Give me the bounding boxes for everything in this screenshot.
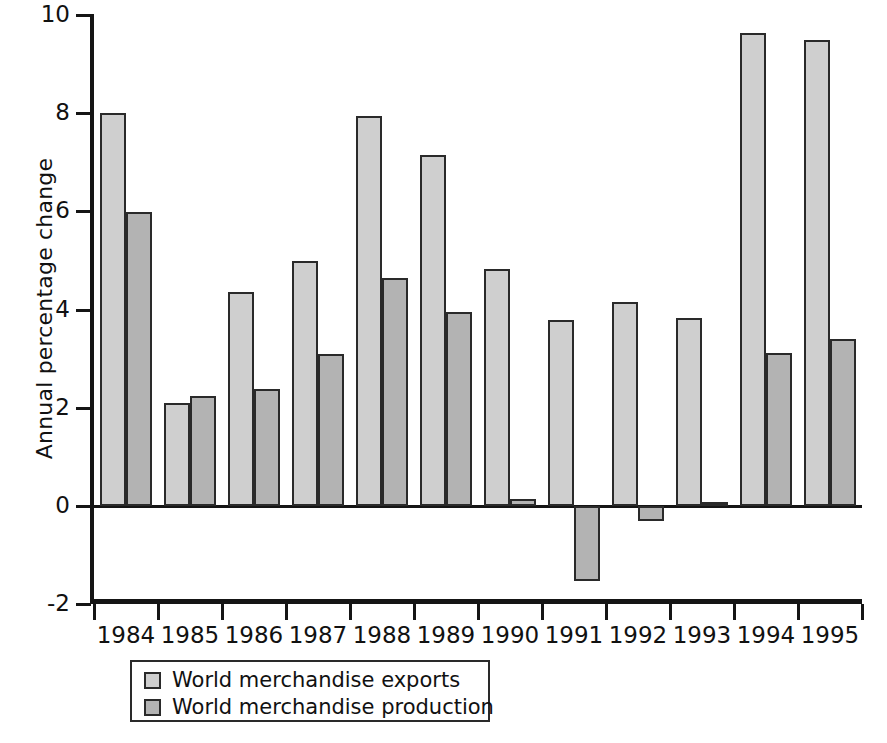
bar-production-1987 [318, 354, 344, 506]
y-tick [76, 505, 91, 508]
bar-production-1989 [446, 312, 472, 506]
legend-label-production: World merchandise production [172, 696, 494, 718]
legend-swatch-production-icon [144, 699, 161, 716]
x-tick-label-1989: 1989 [411, 622, 481, 648]
bar-production-1984 [126, 212, 152, 506]
legend-swatch-exports-icon [144, 672, 161, 689]
x-tick [605, 604, 608, 620]
bar-production-1995 [830, 339, 856, 506]
x-tick-label-1993: 1993 [667, 622, 737, 648]
x-tick [157, 604, 160, 620]
x-axis-line [90, 599, 862, 604]
bar-exports-1995 [804, 40, 830, 506]
x-tick [733, 604, 736, 620]
y-tick-label: 0 [8, 494, 70, 517]
bar-production-1985 [190, 396, 216, 506]
x-tick-label-1984: 1984 [91, 622, 161, 648]
bar-exports-1990 [484, 269, 510, 506]
y-tick [76, 14, 91, 17]
x-tick-label-1995: 1995 [795, 622, 865, 648]
bar-exports-1986 [228, 292, 254, 506]
y-tick-label: 2 [8, 396, 70, 419]
bar-production-1993 [702, 502, 728, 506]
legend-label-exports: World merchandise exports [172, 669, 460, 691]
bar-exports-1991 [548, 320, 574, 506]
x-tick-label-1991: 1991 [539, 622, 609, 648]
x-tick [541, 604, 544, 620]
bar-exports-1992 [612, 302, 638, 506]
legend-item-production: World merchandise production [144, 694, 478, 720]
x-tick-label-1994: 1994 [731, 622, 801, 648]
x-tick [797, 604, 800, 620]
x-tick-label-1986: 1986 [219, 622, 289, 648]
y-tick [76, 210, 91, 213]
y-tick-label: 4 [8, 298, 70, 321]
bar-exports-1984 [100, 113, 126, 506]
y-tick [76, 309, 91, 312]
y-tick [76, 603, 91, 606]
bar-production-1986 [254, 389, 280, 506]
legend: World merchandise exports World merchand… [130, 660, 490, 722]
bar-exports-1987 [292, 261, 318, 507]
bar-exports-1993 [676, 318, 702, 506]
x-tick [349, 604, 352, 620]
bar-production-1988 [382, 278, 408, 506]
x-tick-label-1987: 1987 [283, 622, 353, 648]
bar-production-1990 [510, 499, 536, 506]
y-tick [76, 112, 91, 115]
y-tick-label: 6 [8, 199, 70, 222]
x-tick [669, 604, 672, 620]
bar-production-1994 [766, 353, 792, 506]
bar-exports-1985 [164, 403, 190, 506]
bar-production-1992 [638, 506, 664, 521]
bar-chart: Annual percentage change 1086420-2 19841… [0, 0, 887, 743]
x-tick [861, 604, 864, 620]
x-tick-label-1985: 1985 [155, 622, 225, 648]
bar-production-1991 [574, 506, 600, 581]
x-tick [285, 604, 288, 620]
y-tick-label: 8 [8, 101, 70, 124]
y-tick-label: 10 [8, 3, 70, 26]
x-tick [413, 604, 416, 620]
x-tick [93, 604, 96, 620]
y-tick-label: -2 [8, 592, 70, 615]
bar-exports-1988 [356, 116, 382, 506]
x-tick-label-1990: 1990 [475, 622, 545, 648]
x-tick [221, 604, 224, 620]
bar-exports-1989 [420, 155, 446, 506]
bar-exports-1994 [740, 33, 766, 506]
x-tick-label-1988: 1988 [347, 622, 417, 648]
x-tick-label-1992: 1992 [603, 622, 673, 648]
y-tick [76, 407, 91, 410]
x-tick [477, 604, 480, 620]
legend-item-exports: World merchandise exports [144, 667, 478, 693]
